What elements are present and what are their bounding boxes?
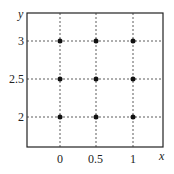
y-axis-label: y — [18, 8, 23, 20]
x-tick-1: 1 — [130, 153, 136, 165]
y-tick-3: 3 — [18, 35, 24, 47]
y-tick-2-5: 2.5 — [9, 73, 24, 85]
x-tick-0-5: 0.5 — [88, 153, 103, 165]
y-tick-2: 2 — [18, 111, 24, 123]
x-tick-0: 0 — [57, 153, 63, 165]
chart-canvas — [0, 0, 174, 174]
x-axis-label: x — [159, 150, 164, 162]
